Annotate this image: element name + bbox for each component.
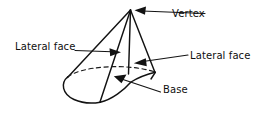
cone-body — [63, 10, 155, 103]
label-vertex: Vertex — [172, 8, 205, 19]
base-arrow-head — [114, 75, 127, 84]
lateral-face-left-leader — [75, 48, 121, 56]
base-ellipse-front-arc-left — [63, 77, 100, 103]
label-lateral-face-right: Lateral face — [190, 50, 250, 61]
edge-apex-to-base-front — [129, 10, 131, 74]
base-leader — [114, 75, 161, 93]
cone-diagram-figure: Vertex Lateral face Lateral face Base — [0, 0, 261, 113]
lateral-face-right-arrow-head — [134, 58, 147, 66]
label-base: Base — [163, 84, 188, 95]
lateral-face-left-leader-line — [75, 51, 112, 52]
label-lateral-face-left: Lateral face — [15, 41, 75, 52]
vertex-arrow-head — [135, 7, 147, 15]
base-leader-line — [123, 80, 161, 93]
lateral-face-right-leader — [134, 55, 188, 66]
